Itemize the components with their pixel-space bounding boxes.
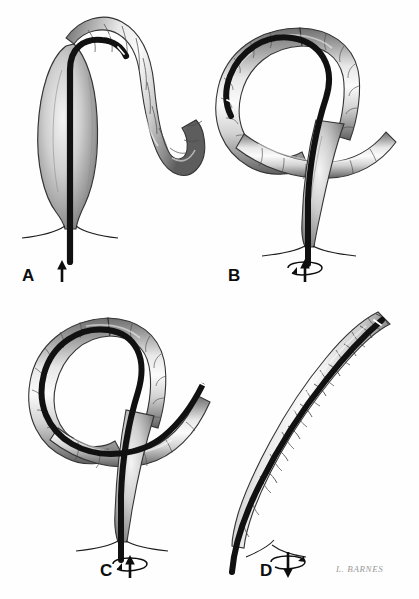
- panel-c-label: C: [100, 561, 112, 580]
- sigmoid-volvulus-illustration: A: [0, 0, 419, 599]
- figure-root: A: [0, 0, 419, 599]
- artist-signature: L. BARNES: [335, 564, 383, 574]
- panel-b-label: B: [228, 266, 240, 285]
- panel-d-label: D: [260, 561, 272, 580]
- panel-a-label: A: [22, 266, 34, 285]
